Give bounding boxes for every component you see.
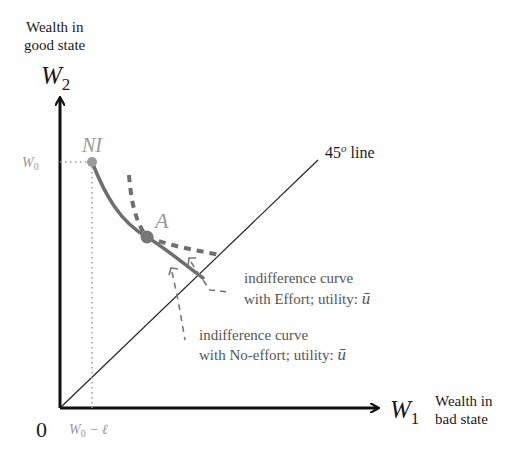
a-point [141, 231, 154, 244]
x-axis-caption-line1: Wealth in [435, 393, 493, 409]
forty-five-degree-label: 45o line [325, 142, 375, 161]
noeffort-annotation-line2: with No-effort; utility: ū [199, 345, 346, 364]
y-axis-caption-line1: Wealth in [26, 19, 84, 35]
y-axis-caption-line2: good state [24, 37, 86, 53]
noeffort-pointer-head-icon [169, 268, 178, 275]
origin-label: 0 [36, 417, 47, 442]
a-label: A [153, 208, 169, 233]
contract-curve [92, 162, 203, 278]
x-axis-caption-line2: bad state [435, 411, 488, 427]
effort-annotation-line2: with Effort; utility: ū [244, 289, 370, 308]
noeffort-pointer [172, 272, 185, 340]
indifference-curve-effort [129, 175, 220, 255]
ni-point [87, 157, 97, 167]
w0-tick-label: W0 [22, 155, 39, 172]
w0-minus-l-tick-label: W0 − ℓ [69, 422, 108, 439]
noeffort-annotation-line1: indifference curve [199, 327, 309, 343]
insurance-effort-diagram: Wealth in good state W2 W1 Wealth in bad… [0, 0, 530, 463]
x-axis-symbol: W1 [390, 396, 419, 428]
y-axis-symbol: W2 [41, 62, 70, 94]
ni-label: NI [81, 134, 103, 156]
effort-annotation-line1: indifference curve [244, 270, 354, 286]
